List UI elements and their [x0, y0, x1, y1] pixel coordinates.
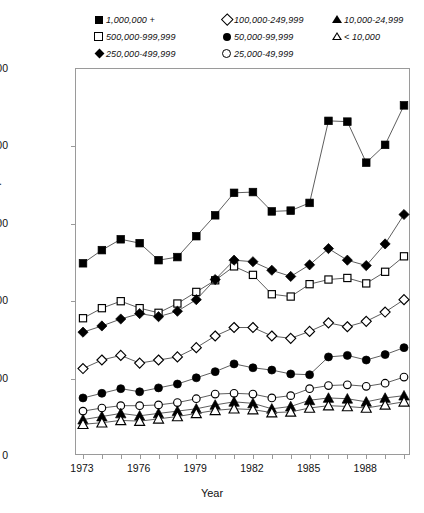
legend-column-1: 1,000,000 +500,000-999,999250,000-499,99…: [92, 12, 176, 63]
series-3: [78, 295, 409, 374]
legend-label: 10,000-24,999: [344, 15, 403, 25]
legend-label: 1,000,000 +: [106, 15, 155, 25]
y-axis-label: Per 100,000 Population: [0, 147, 1, 262]
y-axis-tick-mark: [71, 301, 76, 302]
legend-label: < 10,000: [344, 32, 380, 42]
square-open-icon: [92, 31, 106, 43]
x-axis-tick-mark: [310, 454, 311, 459]
x-axis-tick-mark: [196, 454, 197, 459]
x-axis-tick-label: 1982: [240, 462, 263, 474]
legend-item: 25,000-49,999: [220, 46, 304, 61]
series-5: [79, 373, 408, 415]
legend-label: 250,000-499,999: [106, 49, 176, 59]
chart-legend: 1,000,000 +500,000-999,999250,000-499,99…: [92, 12, 410, 62]
legend-item: < 10,000: [330, 29, 403, 44]
x-axis-tick-mark: [215, 454, 216, 459]
legend-label: 100,000-249,999: [234, 15, 304, 25]
series-4: [79, 344, 408, 402]
square-filled-icon: [92, 14, 106, 26]
triangle-filled-icon: [330, 14, 344, 26]
x-axis-tick-label: 1988: [354, 462, 377, 474]
legend-column-3: 10,000-24,999< 10,000: [330, 12, 403, 46]
x-axis-tick-mark: [83, 454, 84, 459]
circle-open-icon: [220, 48, 234, 60]
y-axis-tick-mark: [71, 224, 76, 225]
series-canvas: [76, 69, 411, 456]
circle-filled-icon: [220, 31, 234, 43]
legend-item: 1,000,000 +: [92, 12, 176, 27]
x-axis-tick-mark: [121, 454, 122, 459]
x-axis-tick-mark: [177, 454, 178, 459]
y-axis-tick-mark: [71, 146, 76, 147]
x-axis-tick-mark: [102, 454, 103, 459]
y-axis-tick-label: 1,000: [0, 294, 8, 306]
x-axis-tick-mark: [328, 454, 329, 459]
x-axis-tick-mark: [253, 454, 254, 459]
x-axis-tick-mark: [347, 454, 348, 459]
legend-item: 500,000-999,999: [92, 29, 176, 44]
y-axis-tick-label: 2,500: [0, 62, 8, 74]
y-axis-tick-label: 0: [0, 449, 8, 461]
x-axis-tick-label: 1976: [127, 462, 150, 474]
legend-label: 25,000-49,999: [234, 49, 293, 59]
legend-item: 10,000-24,999: [330, 12, 403, 27]
legend-column-2: 100,000-249,99950,000-99,99925,000-49,99…: [220, 12, 304, 63]
legend-label: 500,000-999,999: [106, 32, 176, 42]
diamond-open-icon: [220, 14, 234, 26]
x-axis-tick-mark: [291, 454, 292, 459]
x-axis-tick-mark: [159, 454, 160, 459]
series-0: [79, 102, 408, 267]
y-axis-tick-label: 500: [0, 372, 8, 384]
plot-area: [75, 68, 410, 455]
y-axis-tick-label: 2,000: [0, 139, 8, 151]
y-axis-tick-label: 1,500: [0, 217, 8, 229]
series-7: [78, 397, 409, 429]
diamond-filled-icon: [92, 48, 106, 60]
x-axis-tick-mark: [404, 454, 405, 459]
legend-item: 50,000-99,999: [220, 29, 304, 44]
legend-item: 100,000-249,999: [220, 12, 304, 27]
x-axis-label: Year: [0, 487, 424, 499]
x-axis-tick-mark: [234, 454, 235, 459]
x-axis-tick-mark: [272, 454, 273, 459]
x-axis-tick-mark: [385, 454, 386, 459]
x-axis-tick-mark: [366, 454, 367, 459]
legend-label: 50,000-99,999: [234, 32, 293, 42]
x-axis-tick-label: 1979: [184, 462, 207, 474]
x-axis-tick-label: 1985: [297, 462, 320, 474]
legend-item: 250,000-499,999: [92, 46, 176, 61]
triangle-open-icon: [330, 31, 344, 43]
x-axis-tick-label: 1973: [70, 462, 93, 474]
x-axis-tick-mark: [140, 454, 141, 459]
series-2: [78, 209, 409, 337]
y-axis-tick-mark: [71, 379, 76, 380]
chart-figure: 1,000,000 +500,000-999,999250,000-499,99…: [0, 0, 424, 513]
